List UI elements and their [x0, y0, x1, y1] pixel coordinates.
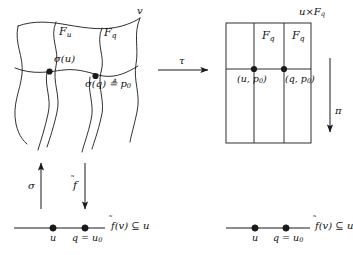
- bottom-left-set-rest: (v) ⊆ u: [115, 220, 150, 231]
- product-fiber-right-base: F: [292, 29, 300, 42]
- branch-curve-left-lower: [38, 72, 49, 150]
- f-tilde-base: f: [73, 179, 77, 192]
- bottom-left-point-u: [50, 225, 56, 231]
- fiber-label-Fq: Fq: [104, 27, 116, 39]
- bottom-left-point-q: [82, 225, 88, 231]
- bottom-left-f: f: [111, 220, 115, 231]
- bottom-right-q-subscript: 0: [299, 236, 303, 244]
- sigma-q-subscript: 0: [127, 82, 131, 90]
- bottom-right-point-q: [283, 225, 289, 231]
- bottom-left-number-line: [14, 225, 105, 231]
- product-title-F: F: [314, 6, 321, 17]
- product-fiber-label-right: Fq: [292, 30, 304, 42]
- point-q-p0-dot: [281, 66, 287, 72]
- arrow-label-pi: π: [335, 106, 342, 116]
- bottom-right-number-line: [226, 225, 310, 231]
- section-curve-sigma: [15, 66, 138, 76]
- bottom-right-q-base: q = u: [273, 232, 299, 243]
- bottom-left-label-u: u: [50, 233, 56, 243]
- product-title-times: ×: [305, 6, 313, 17]
- left-space-label-v: v: [137, 6, 143, 16]
- fiber-Fu-subscript: u: [67, 30, 72, 39]
- fiber-Fq-subscript: q: [112, 31, 117, 40]
- bottom-left-q-base: q = u: [72, 232, 98, 243]
- arrow-label-sigma: σ: [28, 181, 35, 191]
- fiber-label-Fu: Fu: [59, 26, 71, 38]
- fiber-curve-Fu: [47, 22, 58, 147]
- product-fiber-right-subscript: q: [300, 34, 305, 43]
- point-sigma-u-dot: [46, 68, 52, 74]
- left-space-boundary-left: [15, 26, 27, 144]
- bottom-right-f: f: [315, 220, 319, 231]
- arrow-label-f-tilde: ̃f: [73, 180, 77, 191]
- product-fiber-label-left: Fq: [262, 30, 274, 42]
- fiber-Fu-base: F: [59, 25, 67, 38]
- bottom-left-q-subscript: 0: [98, 236, 102, 244]
- point-u-p0-base: (u, p: [237, 73, 259, 84]
- fiber-Fq-base: F: [104, 26, 112, 39]
- bottom-left-set-label: ̃f(v) ⊆ u: [111, 221, 149, 231]
- label-sigma-of-u: σ(u): [54, 54, 75, 64]
- label-point-u-p0: (u, p0): [237, 74, 267, 85]
- point-q-p0-close: ): [311, 73, 315, 84]
- bottom-right-set-rest: (v) ⊆ u: [319, 220, 353, 231]
- bottom-right-set-label: ̃f(v) ⊆ u: [315, 221, 353, 231]
- point-u-p0-dot: [251, 66, 257, 72]
- left-space-top-boundary: [18, 18, 140, 29]
- product-space-title: u×Fq: [299, 7, 325, 18]
- label-point-q-p0: (q, p0): [285, 74, 315, 85]
- bottom-right-label-q: q = u0: [273, 233, 303, 244]
- product-fiber-left-base: F: [262, 29, 270, 42]
- product-fiber-left-subscript: q: [270, 34, 275, 43]
- bottom-left-label-q: q = u0: [72, 233, 102, 244]
- bottom-right-point-u: [252, 225, 258, 231]
- bottom-right-label-u: u: [252, 233, 258, 243]
- sigma-q-text: σ(q) ≜ p: [85, 78, 127, 89]
- point-q-p0-base: (q, p: [285, 73, 307, 84]
- product-title-subscript: q: [321, 10, 325, 18]
- arrow-label-tau: τ: [179, 56, 185, 66]
- left-space-boundary-right: [130, 18, 140, 142]
- label-sigma-of-q-equals-p0: σ(q) ≜ p0: [85, 79, 131, 90]
- point-u-p0-close: ): [263, 73, 267, 84]
